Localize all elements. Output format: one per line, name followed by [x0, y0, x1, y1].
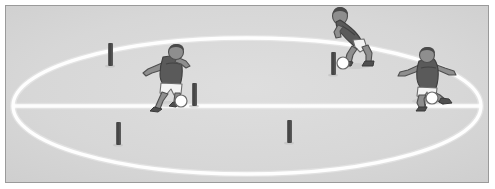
pole-body	[116, 122, 121, 145]
pole-body	[192, 83, 197, 106]
soccer-ball	[175, 95, 187, 107]
soccer-drill-illustration: Soccer training drill diagram	[0, 0, 495, 189]
pole-body	[287, 120, 292, 143]
pole-body	[331, 52, 336, 75]
pole-body	[108, 43, 113, 66]
soccer-ball	[426, 92, 438, 104]
field-canvas	[0, 0, 495, 189]
soccer-ball	[337, 57, 349, 69]
